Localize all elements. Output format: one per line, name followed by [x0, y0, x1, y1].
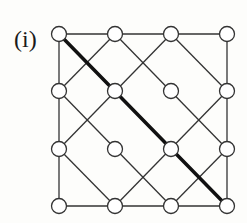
node-0-2 [52, 142, 67, 157]
node-3-0 [220, 27, 235, 42]
node-0-0 [52, 27, 67, 42]
edge-diagonal [59, 149, 115, 206]
node-2-0 [164, 27, 179, 42]
node-3-1 [220, 84, 235, 99]
edge-diagonal [171, 34, 227, 91]
highlighted-diagonal [59, 34, 227, 206]
node-2-3 [164, 199, 179, 214]
node-3-3 [220, 199, 235, 214]
node-0-3 [52, 199, 67, 214]
node-1-1 [108, 84, 123, 99]
node-3-2 [220, 142, 235, 157]
node-1-2 [108, 142, 123, 157]
node-2-1 [164, 84, 179, 99]
node-1-0 [108, 27, 123, 42]
node-2-2 [164, 142, 179, 157]
node-0-1 [52, 84, 67, 99]
lattice-graph [0, 0, 247, 223]
node-1-3 [108, 199, 123, 214]
highlighted-path [59, 34, 227, 206]
